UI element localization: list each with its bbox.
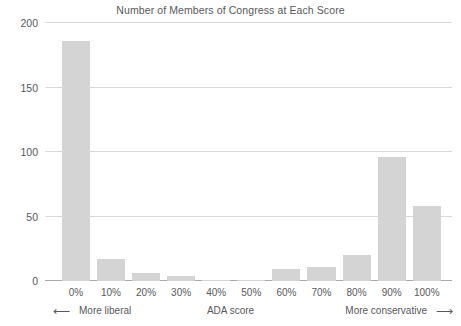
x-axis-tick-label: 30% — [171, 287, 191, 298]
bar-chart: Number of Members of Congress at Each Sc… — [0, 0, 461, 326]
right-direction-note: More conservative⟶ — [345, 305, 453, 316]
x-axis-tick-label: 70% — [311, 287, 331, 298]
bar — [62, 41, 90, 281]
gridline — [45, 87, 452, 88]
x-axis-tick-label: 10% — [101, 287, 121, 298]
x-axis-tick-label: 20% — [136, 287, 156, 298]
y-axis-tick-label: 150 — [0, 82, 38, 94]
x-axis-tick-label: 40% — [206, 287, 226, 298]
bar — [237, 280, 265, 281]
y-axis-tick-label: 100 — [0, 146, 38, 158]
x-axis-tick-label: 50% — [241, 287, 261, 298]
bar — [307, 267, 335, 281]
x-axis-tick-label: 0% — [69, 287, 83, 298]
right-arrow-icon: ⟶ — [436, 306, 453, 316]
chart-title: Number of Members of Congress at Each Sc… — [0, 4, 461, 16]
right-note-label: More conservative — [345, 305, 427, 316]
bar — [413, 206, 441, 281]
bar — [343, 255, 371, 281]
bar — [378, 157, 406, 281]
gridline — [45, 151, 452, 152]
x-axis-tick-label: 90% — [382, 287, 402, 298]
gridline — [45, 22, 452, 23]
bar — [97, 259, 125, 281]
plot-area — [45, 23, 452, 281]
y-axis-tick-label: 200 — [0, 17, 38, 29]
bar — [272, 269, 300, 281]
y-axis-tick-label: 50 — [0, 211, 38, 223]
x-axis-tick-label: 60% — [276, 287, 296, 298]
x-axis-tick-label: 100% — [414, 287, 440, 298]
x-axis-tick-label: 80% — [347, 287, 367, 298]
bar — [202, 280, 230, 281]
y-axis-tick-label: 0 — [0, 275, 38, 287]
bar — [132, 273, 160, 281]
bar — [167, 276, 195, 281]
